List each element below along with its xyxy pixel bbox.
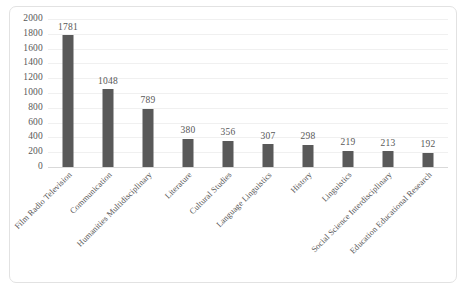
bar[interactable] [383,151,394,167]
y-axis-tick-label: 1800 [23,29,43,39]
axis-baseline [48,167,448,168]
bar-value-label: 219 [341,138,356,148]
x-label-slot: Humanities Multidisciplinary [128,169,168,281]
bar-value-label: 789 [141,96,156,106]
caption-strip [0,292,466,302]
y-axis-tick-label: 1000 [23,88,43,98]
bar-slot: 356 [208,19,248,167]
bar[interactable] [263,144,274,167]
bar-value-label: 307 [261,132,276,142]
bar[interactable] [423,153,434,167]
bar-slot: 380 [168,19,208,167]
x-label-slot: Education Educational Research [408,169,448,281]
bar-slot: 1781 [48,19,88,167]
x-label-slot: Film Radio Television [48,169,88,281]
bar-value-label: 356 [221,128,236,138]
bar[interactable] [303,145,314,167]
bar-slot: 213 [368,19,408,167]
bar[interactable] [63,35,74,167]
bar[interactable] [183,139,194,167]
bar-value-label: 298 [301,132,316,142]
bar-value-label: 213 [381,139,396,149]
x-axis-category-label: Literature [164,171,194,201]
bar[interactable] [343,151,354,167]
x-label-slot: History [288,169,328,281]
bar-value-label: 1048 [98,77,118,87]
x-axis-category-label: History [290,171,314,195]
bar-value-label: 1781 [58,23,78,33]
x-axis-category-labels: Film Radio TelevisionCommunicationHumani… [48,169,448,281]
y-axis-tick-label: 2000 [23,14,43,24]
bar-slot: 192 [408,19,448,167]
bar-value-label: 380 [181,126,196,136]
y-axis-tick-label: 400 [28,133,43,143]
bar[interactable] [143,109,154,167]
x-label-slot: Cultural Studies [208,169,248,281]
bar-slot: 789 [128,19,168,167]
bar-series: 17811048789380356307298219213192 [48,19,448,167]
y-axis-tick-label: 200 [28,147,43,157]
y-axis-tick-label: 800 [28,103,43,113]
bar[interactable] [103,89,114,167]
bar-slot: 298 [288,19,328,167]
x-label-slot: Literature [168,169,208,281]
y-axis-tick-label: 1400 [23,59,43,69]
bar-slot: 1048 [88,19,128,167]
plot-area: 0200400600800100012001400160018002000 17… [48,19,448,167]
bar-slot: 219 [328,19,368,167]
y-axis-tick-label: 600 [28,118,43,128]
y-axis-tick-label: 1200 [23,73,43,83]
y-axis-tick-label: 1600 [23,44,43,54]
x-axis-category-label: Film Radio Television [14,171,74,231]
bar-slot: 307 [248,19,288,167]
bar[interactable] [223,141,234,167]
chart-frame: 0200400600800100012001400160018002000 17… [9,6,457,283]
bar-value-label: 192 [421,140,436,150]
y-axis-tick-label: 0 [38,162,43,172]
chart-figure: 0200400600800100012001400160018002000 17… [0,0,466,302]
x-label-slot: Language Linguistics [248,169,288,281]
